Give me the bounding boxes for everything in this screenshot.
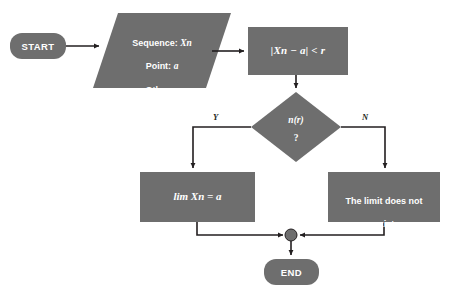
connector-yes-to-merge xyxy=(197,222,283,235)
result-yes-node-shape[interactable] xyxy=(140,172,255,222)
input-node-shape[interactable] xyxy=(93,13,231,88)
result-no-node-shape[interactable] xyxy=(328,172,440,222)
end-node-shape[interactable] xyxy=(264,259,319,285)
connector-no-to-merge xyxy=(300,222,384,235)
merge-junction-dot xyxy=(285,229,297,241)
decision-node-shape[interactable] xyxy=(251,92,341,162)
connector-decision-no xyxy=(341,127,385,168)
start-node-shape[interactable] xyxy=(10,33,66,59)
connector-decision-yes xyxy=(193,127,251,168)
flowchart-canvas: START Sequence: Xn Point: a Other: r |Xn… xyxy=(0,0,451,298)
flowchart-graphics xyxy=(0,0,451,298)
process-node-shape[interactable] xyxy=(248,27,348,75)
